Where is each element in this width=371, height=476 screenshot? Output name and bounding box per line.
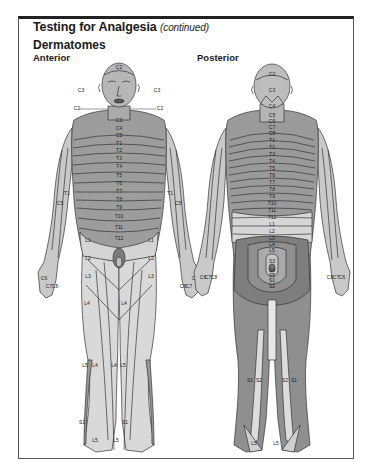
svg-text:C8: C8: [211, 274, 218, 280]
svg-text:T12: T12: [115, 235, 124, 241]
svg-text:T8: T8: [269, 186, 275, 192]
svg-text:S2: S2: [256, 377, 262, 383]
svg-text:T1: T1: [269, 137, 275, 143]
svg-text:S1: S1: [122, 419, 128, 425]
svg-text:L2: L2: [269, 228, 275, 234]
svg-text:T12: T12: [268, 214, 277, 220]
svg-text:S3: S3: [269, 258, 275, 264]
svg-text:L5: L5: [269, 247, 275, 253]
svg-text:L3: L3: [148, 273, 154, 279]
svg-text:C2: C2: [116, 64, 123, 70]
svg-text:L3: L3: [85, 273, 91, 279]
svg-text:S1: S1: [247, 377, 253, 383]
svg-text:C8: C8: [269, 130, 276, 136]
svg-text:S1: S1: [291, 377, 297, 383]
svg-text:T9: T9: [269, 193, 275, 199]
svg-text:T3: T3: [116, 155, 122, 161]
svg-text:T7: T7: [269, 179, 275, 185]
svg-text:T11: T11: [115, 224, 123, 230]
svg-text:L5: L5: [251, 440, 257, 446]
svg-text:L5: L5: [82, 362, 88, 368]
svg-text:C5: C5: [116, 132, 123, 138]
svg-text:L1: L1: [269, 221, 275, 227]
svg-text:L2: L2: [148, 255, 154, 261]
svg-text:C7: C7: [186, 283, 193, 289]
svg-text:C4: C4: [269, 103, 276, 109]
svg-text:T4: T4: [116, 163, 122, 169]
svg-text:C5: C5: [175, 200, 182, 206]
svg-text:S2: S2: [282, 377, 288, 383]
svg-text:T10: T10: [115, 213, 124, 219]
svg-text:T1: T1: [64, 190, 70, 196]
dermatome-diagram: C2 C3 C3 C2 C2 C3 C4 C5 T1 T2 T3 T4 T5 T…: [0, 0, 371, 476]
svg-text:C5: C5: [57, 200, 64, 206]
svg-text:L4: L4: [92, 362, 98, 368]
svg-text:C6: C6: [41, 275, 48, 281]
svg-text:C6: C6: [339, 274, 346, 280]
svg-text:L1: L1: [85, 237, 91, 243]
svg-text:L2: L2: [85, 255, 91, 261]
svg-text:T8: T8: [116, 196, 122, 202]
svg-text:C2: C2: [269, 71, 276, 77]
svg-text:T2: T2: [116, 147, 122, 153]
svg-text:L5: L5: [92, 437, 98, 443]
svg-text:L5: L5: [120, 362, 126, 368]
svg-text:C8: C8: [52, 283, 59, 289]
svg-text:L4: L4: [111, 362, 117, 368]
svg-text:T1: T1: [167, 190, 173, 196]
svg-text:T5: T5: [269, 165, 275, 171]
svg-text:L4: L4: [121, 300, 127, 306]
svg-text:T10: T10: [268, 200, 277, 206]
svg-text:S5: S5: [269, 272, 275, 278]
svg-text:L5: L5: [113, 437, 119, 443]
svg-text:T11: T11: [268, 207, 276, 213]
svg-text:T2: T2: [269, 144, 275, 150]
svg-text:T6: T6: [116, 180, 122, 186]
svg-text:L4: L4: [84, 300, 90, 306]
svg-text:C3: C3: [269, 87, 276, 93]
svg-text:L1: L1: [148, 237, 154, 243]
svg-text:C2: C2: [157, 105, 164, 111]
posterior-labels: C2 C3 C4 C5 C6 C7 C8 T1 T2 T3 T4 T5 T6 T…: [200, 71, 346, 446]
svg-text:C3: C3: [116, 117, 123, 123]
svg-text:T4: T4: [269, 158, 275, 164]
svg-text:C2: C2: [74, 105, 81, 111]
svg-text:T9: T9: [116, 204, 122, 210]
svg-text:C3: C3: [78, 87, 85, 93]
svg-text:T3: T3: [269, 151, 275, 157]
svg-text:C4: C4: [116, 125, 123, 131]
svg-text:T5: T5: [116, 172, 122, 178]
svg-text:C3: C3: [154, 87, 161, 93]
svg-text:T7: T7: [116, 188, 122, 194]
svg-text:T6: T6: [269, 172, 275, 178]
svg-text:L5: L5: [273, 440, 279, 446]
svg-text:T1: T1: [116, 140, 122, 146]
svg-text:S2: S2: [269, 283, 275, 289]
svg-text:S1: S1: [79, 419, 85, 425]
